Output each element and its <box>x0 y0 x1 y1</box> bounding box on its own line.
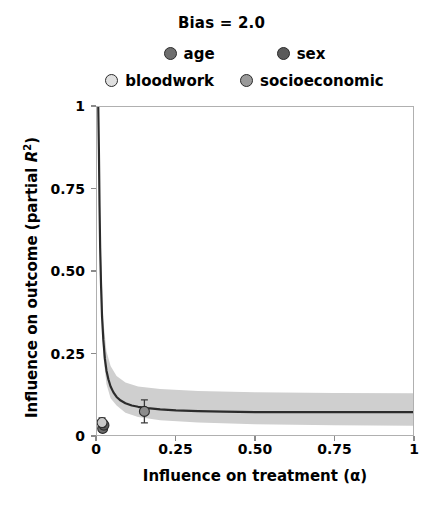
legend-marker-sex <box>277 47 290 60</box>
chart-title: Bias = 2.0 <box>0 14 443 32</box>
legend-entry-bloodwork[interactable]: bloodwork <box>105 72 214 90</box>
legend-label-sex: sex <box>297 45 326 63</box>
point-marker <box>97 418 107 428</box>
y-axis-label-pre: Influence on outcome (partial <box>23 162 41 418</box>
chart-legend: age sex bloodwork socioeconomic <box>52 40 437 94</box>
legend-row: bloodwork socioeconomic <box>52 67 437 94</box>
bias-curve <box>98 107 413 412</box>
y-tickmark <box>91 105 96 106</box>
x-tick-label: 0.75 <box>317 441 352 457</box>
x-tick-label: 0.50 <box>238 441 273 457</box>
y-axis-label-post: ) <box>23 137 41 144</box>
data-point-bloodwork[interactable] <box>97 418 107 428</box>
legend-marker-socioeconomic <box>240 74 253 87</box>
x-tick-label: 0 <box>91 441 101 457</box>
x-tick-label: 0.25 <box>158 441 193 457</box>
y-tick-label: 0 <box>33 428 85 444</box>
confidence-band <box>98 107 413 426</box>
y-tickmark <box>91 270 96 271</box>
legend-marker-age <box>164 47 177 60</box>
point-marker <box>139 406 149 416</box>
legend-marker-bloodwork <box>105 74 118 87</box>
y-axis-label-sup: 2 <box>22 144 33 151</box>
x-tick-label: 1 <box>409 441 419 457</box>
legend-label-age: age <box>184 45 215 63</box>
legend-entry-socioeconomic[interactable]: socioeconomic <box>240 72 384 90</box>
chart-figure: Bias = 2.0 age sex bloodwork socioeconom… <box>0 0 443 507</box>
chart-canvas <box>97 107 413 435</box>
legend-label-socioeconomic: socioeconomic <box>260 72 384 90</box>
legend-label-bloodwork: bloodwork <box>125 72 214 90</box>
y-tickmark <box>91 435 96 436</box>
legend-entry-sex[interactable]: sex <box>277 45 326 63</box>
y-axis-label: Influence on outcome (partial R2) <box>22 137 41 418</box>
y-axis-label-italic: R <box>23 151 41 163</box>
legend-row: age sex <box>52 40 437 67</box>
y-tickmark <box>91 353 96 354</box>
legend-entry-age[interactable]: age <box>164 45 215 63</box>
y-tickmark <box>91 188 96 189</box>
y-tick-label: 1 <box>33 98 85 114</box>
x-axis-label: Influence on treatment (α) <box>96 467 414 485</box>
plot-area <box>96 106 414 436</box>
